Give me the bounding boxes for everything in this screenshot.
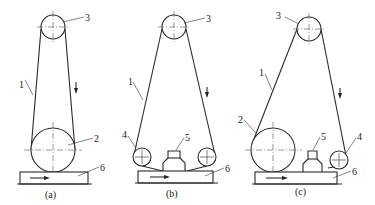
label-3: 3 (85, 12, 90, 23)
label-1: 1 (19, 79, 24, 90)
panel-a: 3 1 2 6 (a) (17, 11, 105, 201)
platen (163, 151, 185, 171)
belt-left-run (134, 29, 162, 155)
caption-a: (a) (45, 189, 56, 201)
label-6: 6 (100, 162, 105, 173)
label-3: 3 (206, 13, 211, 24)
belt-right-run (186, 29, 215, 155)
panel-b: 3 1 4 5 6 (b) (122, 11, 230, 200)
label-3: 3 (276, 10, 281, 21)
label-6: 6 (352, 166, 357, 177)
label-6: 6 (225, 163, 230, 174)
belt-left-run (31, 29, 41, 150)
label-1: 1 (259, 67, 264, 78)
label-4: 4 (357, 131, 362, 142)
label-5: 5 (321, 131, 326, 142)
belt-right-run (65, 29, 75, 150)
belt-direction-arrow-icon (338, 93, 342, 99)
belt-grinding-diagram: 3 1 2 6 (a) (0, 0, 375, 205)
panel-c: 3 1 2 5 4 6 (c) (238, 10, 362, 198)
label-5: 5 (185, 132, 190, 143)
caption-b: (b) (166, 188, 178, 200)
belt-direction-arrow-icon (205, 92, 209, 98)
caption-c: (c) (295, 186, 306, 198)
label-2: 2 (94, 133, 99, 144)
label-4: 4 (122, 129, 127, 140)
label-1: 1 (128, 76, 133, 87)
belt-left-run (252, 29, 297, 144)
workpiece (138, 171, 213, 183)
belt-direction-arrow-icon (74, 88, 78, 94)
label-2: 2 (238, 114, 243, 125)
platen (303, 151, 322, 172)
